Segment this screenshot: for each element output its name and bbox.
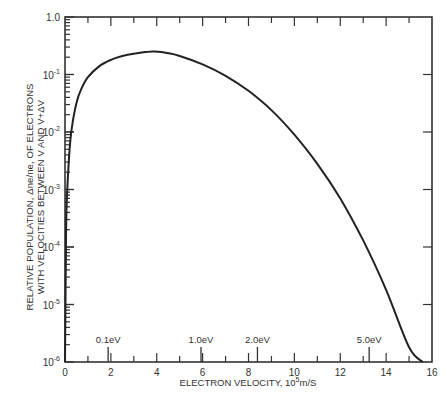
distribution-curve [65, 52, 423, 362]
energy-marker-label: 2.0eV [245, 334, 270, 345]
axis-ticks [65, 17, 432, 362]
energy-markers: 0.1eV1.0eV2.0eV5.0eV [96, 334, 383, 362]
x-axis-title: ELECTRON VELOCITY, 105m/S [180, 376, 317, 388]
y-axis-title-line2: WITH VELOCITIES BETWEEN V AND V+ΔV [35, 12, 46, 382]
x-tick-label: 12 [335, 367, 347, 378]
y-axis-title-line1: RELATIVE POPULATION, Δne/ne, OF ELECTRON… [24, 12, 35, 382]
velocity-distribution-chart: 1.010-110-210-310-410-510-6 024681012141… [0, 0, 447, 403]
x-tick-label: 0 [62, 367, 68, 378]
y-axis-title: RELATIVE POPULATION, Δne/ne, OF ELECTRON… [24, 12, 46, 382]
x-tick-label: 4 [154, 367, 160, 378]
y-tick-label: 1.0 [46, 12, 60, 23]
x-tick-label: 16 [426, 367, 438, 378]
plot-frame [65, 17, 432, 362]
x-tick-label: 14 [381, 367, 393, 378]
energy-marker-label: 5.0eV [357, 334, 382, 345]
x-tick-label: 2 [108, 367, 114, 378]
energy-marker-label: 1.0eV [189, 334, 214, 345]
energy-marker-label: 0.1eV [96, 334, 121, 345]
